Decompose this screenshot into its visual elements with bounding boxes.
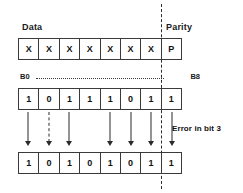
transmission-arrow — [100, 110, 121, 152]
bit-cell: 1 — [162, 89, 181, 109]
arrow-shaft — [28, 112, 29, 142]
arrow-head-icon — [66, 141, 72, 146]
bit-cell: 0 — [121, 153, 141, 173]
arrow-head-icon — [107, 141, 113, 146]
bit-cell: 1 — [101, 89, 121, 109]
bit-span-dotted-line — [36, 78, 164, 79]
arrow-head-icon — [128, 141, 134, 146]
bit-cell: 0 — [80, 153, 100, 173]
bit-cell: 1 — [60, 153, 80, 173]
bit-index-span: B0 B8 — [20, 72, 182, 84]
transmission-arrow — [18, 110, 39, 152]
bit-cell: X — [80, 39, 100, 59]
bit-cell: 1 — [141, 153, 161, 173]
received-bits-row: 10101011 — [18, 152, 182, 174]
error-annotation: Error in bit 3 — [172, 124, 221, 133]
bit-end-label: B8 — [190, 72, 200, 81]
arrow-shaft — [110, 112, 111, 142]
bit-cell: X — [60, 39, 80, 59]
data-section-label: Data — [22, 22, 42, 32]
bit-cell: X — [141, 39, 161, 59]
bit-cell: 0 — [121, 89, 141, 109]
arrow-head-icon — [148, 141, 154, 146]
bit-start-label: B0 — [20, 72, 30, 81]
bit-cell: 0 — [39, 153, 59, 173]
transmission-arrow — [121, 110, 142, 152]
transmission-arrow — [80, 110, 101, 152]
bit-cell: 1 — [80, 89, 100, 109]
arrow-head-icon — [169, 141, 175, 146]
bit-cell: P — [162, 39, 181, 59]
bit-cell: 0 — [39, 89, 59, 109]
arrow-shaft — [48, 112, 49, 142]
bit-cell: 1 — [101, 153, 121, 173]
bit-cell: 1 — [60, 89, 80, 109]
arrow-shaft — [130, 112, 131, 142]
bit-cell: X — [39, 39, 59, 59]
transmission-arrows — [18, 110, 182, 152]
transmitted-bits-row: 10111011 — [18, 88, 182, 110]
bit-cell: 1 — [19, 153, 39, 173]
transmission-arrow — [39, 110, 60, 152]
transmission-arrow — [59, 110, 80, 152]
bit-cell: X — [101, 39, 121, 59]
bit-cell: X — [121, 39, 141, 59]
frame-template-row: XXXXXXXP — [18, 38, 182, 60]
parity-section-label: Parity — [166, 22, 192, 32]
bit-cell: X — [19, 39, 39, 59]
arrow-shaft — [69, 112, 70, 142]
arrow-head-icon — [46, 141, 52, 146]
bit-cell: 1 — [141, 89, 161, 109]
arrow-head-icon — [25, 141, 31, 146]
bit-cell: 1 — [162, 153, 181, 173]
bit-cell: 1 — [19, 89, 39, 109]
arrow-shaft — [151, 112, 152, 142]
parity-error-diagram: Data Parity XXXXXXXP B0 B8 10111011 Erro… — [0, 0, 243, 193]
transmission-arrow — [141, 110, 162, 152]
